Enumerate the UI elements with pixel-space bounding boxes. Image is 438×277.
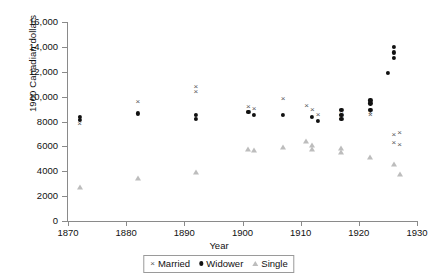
data-point-widower: [386, 71, 390, 75]
data-point-single: [280, 144, 286, 149]
data-point-widower: [310, 114, 314, 118]
legend-label-married: Married: [158, 258, 190, 269]
data-point-widower: [368, 101, 372, 105]
data-point-married: ×: [397, 129, 402, 137]
x-tick: [184, 221, 185, 226]
y-tick-label: 0: [0, 216, 58, 226]
data-point-single: [391, 161, 397, 166]
y-tick-label: 8000: [0, 117, 58, 127]
x-tick-label: 1920: [336, 228, 382, 238]
x-tick-label: 1870: [45, 228, 91, 238]
chart-legend: × Married Widower Single: [143, 255, 294, 273]
x-tick: [359, 221, 360, 226]
data-point-single: [367, 154, 373, 159]
x-marker-icon: ×: [150, 259, 155, 268]
data-point-single: [251, 148, 257, 153]
x-tick: [68, 221, 69, 226]
data-point-married: ×: [135, 98, 140, 106]
y-tick-label: 14,000: [0, 42, 58, 52]
data-point-single: [338, 149, 344, 154]
scatter-chart-figure: 1900 Canadian dollars 020004000600080001…: [0, 0, 438, 277]
legend-item-married[interactable]: × Married: [150, 258, 190, 269]
data-point-married: ×: [281, 95, 286, 103]
legend-label-widower: Widower: [206, 258, 243, 269]
data-point-single: [397, 172, 403, 177]
y-tick-label: 6000: [0, 141, 58, 151]
y-tick-label: 10,000: [0, 92, 58, 102]
data-point-widower: [316, 119, 320, 123]
x-tick-label: 1880: [103, 228, 149, 238]
x-tick-label: 1900: [220, 228, 266, 238]
x-tick: [126, 221, 127, 226]
data-point-married: ×: [368, 111, 373, 119]
data-point-single: [77, 185, 83, 190]
x-tick-label: 1890: [161, 228, 207, 238]
data-point-widower: [281, 113, 285, 117]
x-tick-label: 1930: [394, 228, 438, 238]
data-point-married: ×: [194, 88, 199, 96]
data-point-married: ×: [304, 102, 309, 110]
y-tick-label: 4000: [0, 166, 58, 176]
data-point-widower: [392, 50, 396, 54]
data-point-widower: [392, 45, 396, 49]
data-point-single: [193, 169, 199, 174]
data-point-single: [135, 176, 141, 181]
data-point-married: ×: [310, 106, 315, 114]
circle-marker-icon: [199, 261, 203, 265]
data-point-widower: [194, 117, 198, 121]
data-point-married: ×: [391, 139, 396, 147]
x-tick: [243, 221, 244, 226]
y-tick-label: 2000: [0, 191, 58, 201]
legend-item-single[interactable]: Single: [252, 258, 287, 269]
x-tick: [301, 221, 302, 226]
data-point-widower: [392, 56, 396, 60]
data-point-single: [309, 147, 315, 152]
triangle-marker-icon: [252, 261, 258, 266]
x-axis-label: Year: [0, 240, 438, 251]
y-tick-label: 12,000: [0, 67, 58, 77]
data-point-widower: [136, 111, 140, 115]
legend-label-single: Single: [261, 258, 287, 269]
data-point-married: ×: [397, 141, 402, 149]
x-tick: [417, 221, 418, 226]
x-tick-label: 1910: [278, 228, 324, 238]
legend-item-widower[interactable]: Widower: [199, 258, 243, 269]
plot-area: ×××××××××××××××××××: [68, 22, 417, 221]
y-tick-label: 16,000: [0, 17, 58, 27]
data-point-widower: [252, 113, 256, 117]
